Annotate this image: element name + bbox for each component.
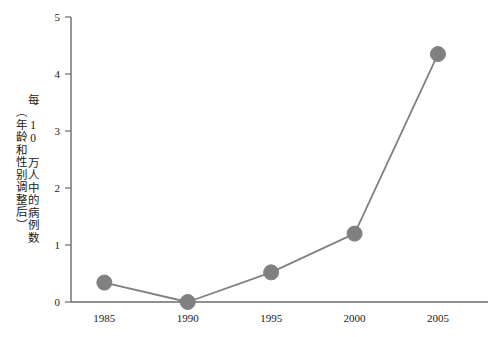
chart-figure: （年龄和性别调整后） 每 10 万人中的病例数 012345 198519901… [0, 0, 502, 337]
y-tick-labels: 012345 [55, 11, 61, 308]
data-point-marker [180, 295, 195, 310]
x-tick-label: 1995 [260, 312, 283, 324]
line-chart-plot: 012345 19851990199520002005 [0, 0, 502, 337]
data-point-marker [97, 275, 112, 290]
x-tick-label: 1990 [177, 312, 200, 324]
y-tick-label: 2 [55, 182, 61, 194]
axes [71, 17, 488, 302]
data-point-marker [347, 226, 362, 241]
y-tick-label: 4 [55, 68, 61, 80]
data-series-markers [97, 47, 446, 310]
y-tick-marks [65, 17, 71, 302]
x-tick-label: 2005 [427, 312, 450, 324]
data-point-marker [264, 265, 279, 280]
y-tick-label: 3 [55, 125, 61, 137]
y-tick-label: 0 [55, 296, 61, 308]
x-tick-label: 1985 [93, 312, 116, 324]
data-point-marker [430, 47, 445, 62]
y-tick-label: 1 [55, 239, 61, 251]
x-tick-label: 2000 [344, 312, 367, 324]
x-tick-labels: 19851990199520002005 [93, 312, 449, 324]
y-tick-label: 5 [55, 11, 61, 23]
